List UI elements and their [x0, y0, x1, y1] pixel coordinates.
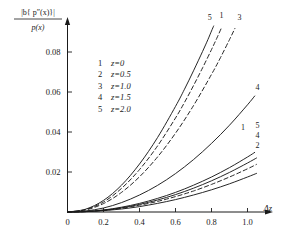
curve-label-3: 3	[237, 13, 241, 22]
curve-label-1: 1	[241, 123, 245, 132]
curve-label-5: 5	[255, 121, 259, 130]
x-axis-tick-label: 0.4	[134, 217, 145, 227]
curve-label-5: 5	[208, 13, 212, 22]
y-axis-label-numerator: |b{ p″(x)}|	[21, 8, 55, 17]
legend-label-2: z=0.5	[110, 69, 131, 79]
legend-label-5: z=2.0	[110, 104, 131, 114]
chart-figure: 00.20.40.60.81.0 0.020.040.060.08 513415…	[0, 0, 290, 236]
curve-label-2: 2	[255, 141, 259, 150]
legend-key-1: 1	[98, 58, 102, 68]
chart-background	[0, 0, 290, 236]
y-axis-tick-label: 0.08	[46, 47, 61, 57]
legend-key-5: 5	[98, 104, 102, 114]
legend-label-1: z=0	[110, 58, 125, 68]
x-axis-tick-label: 1.0	[242, 217, 253, 227]
y-axis-label-denominator: p(x)	[31, 23, 45, 32]
legend-label-3: z=1.0	[110, 81, 131, 91]
curve-label-4: 4	[255, 131, 259, 140]
y-axis-tick-label: 0.04	[46, 127, 62, 137]
x-axis-label: Δz	[263, 203, 273, 213]
curve-label-1: 1	[219, 11, 223, 20]
y-axis-tick-label: 0.02	[46, 167, 61, 177]
legend-key-2: 2	[98, 69, 102, 79]
x-axis-tick-label: 0.2	[98, 217, 109, 227]
legend-label-4: z=1.5	[110, 92, 131, 102]
x-axis-tick-label: 0.6	[170, 217, 181, 227]
x-axis-tick-label: 0	[65, 217, 69, 227]
y-axis-tick-label: 0.06	[46, 87, 61, 97]
x-axis-tick-label: 0.8	[206, 217, 217, 227]
legend-key-3: 3	[98, 81, 102, 91]
curve-label-4: 4	[255, 83, 259, 92]
